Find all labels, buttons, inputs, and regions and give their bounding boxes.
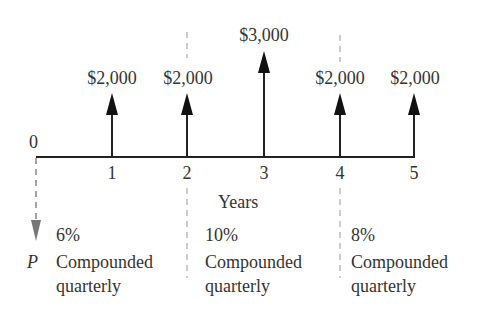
cash-flow-amount-year-1: $2,000 bbox=[87, 69, 137, 87]
tick-label-year-3: 3 bbox=[260, 164, 269, 182]
rate-segment-3-rate: 8% bbox=[351, 226, 375, 244]
rate-segment-2-line2: quarterly bbox=[205, 277, 270, 295]
present-value-label: P bbox=[27, 253, 38, 271]
rate-segment-2-line1: Compounded bbox=[205, 253, 302, 271]
cash-flow-arrow-year-1 bbox=[106, 93, 118, 157]
tick-label-year-5: 5 bbox=[410, 164, 419, 182]
cash-flow-arrow-year-5 bbox=[408, 93, 420, 157]
axis-label-years: Years bbox=[218, 193, 258, 211]
origin-label: 0 bbox=[29, 133, 38, 151]
tick-label-year-2: 2 bbox=[183, 164, 192, 182]
cash-flow-arrow-year-4 bbox=[334, 93, 346, 157]
cash-flow-amount-year-4: $2,000 bbox=[315, 69, 365, 87]
rate-segment-1-line1: Compounded bbox=[56, 253, 153, 271]
rate-segment-2-rate: 10% bbox=[205, 226, 238, 244]
cash-flow-amount-year-2: $2,000 bbox=[163, 69, 213, 87]
rate-segment-3-line2: quarterly bbox=[351, 277, 416, 295]
rate-segment-1-rate: 6% bbox=[56, 226, 80, 244]
cash-flow-arrow-year-2 bbox=[181, 93, 193, 157]
cash-flow-arrow-year-3 bbox=[258, 51, 270, 157]
cash-flow-amount-year-3: $3,000 bbox=[239, 26, 289, 44]
tick-label-year-1: 1 bbox=[108, 164, 117, 182]
cash-flow-diagram: $2,000 $2,000 $3,000 $2,000 $2,000 0 1 2… bbox=[0, 0, 498, 311]
present-value-arrowhead-icon bbox=[31, 220, 41, 241]
rate-segment-1-line2: quarterly bbox=[56, 277, 121, 295]
cash-flow-amount-year-5: $2,000 bbox=[390, 69, 440, 87]
tick-label-year-4: 4 bbox=[336, 164, 345, 182]
rate-segment-3-line1: Compounded bbox=[351, 253, 448, 271]
